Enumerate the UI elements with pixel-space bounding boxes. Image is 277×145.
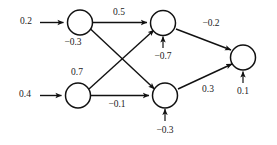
bias-label-h3: −0.7 <box>154 51 171 61</box>
network-canvas: 0.2 0.4 0.5 −0.1 −0.2 0.3 −0.3 0.7 −0.7 … <box>0 0 277 145</box>
node-h3[interactable] <box>151 11 176 36</box>
bias-label-out: 0.1 <box>237 86 249 96</box>
neural-network-diagram: 0.2 0.4 0.5 −0.1 −0.2 0.3 −0.3 0.7 −0.7 … <box>0 0 277 145</box>
node-h1[interactable] <box>68 10 93 35</box>
bias-label-h1: −0.3 <box>64 37 81 47</box>
bias-label-h2: 0.7 <box>71 67 83 77</box>
input-label-2: 0.4 <box>19 89 31 99</box>
edge-label-h3-out: −0.2 <box>202 18 219 28</box>
input-label-1: 0.2 <box>20 16 32 26</box>
node-h4[interactable] <box>153 83 178 108</box>
node-out[interactable] <box>231 45 256 70</box>
edge-label-h2-h4: −0.1 <box>108 99 125 109</box>
edge-label-h1-h3: 0.5 <box>113 7 125 17</box>
bias-label-h4: −0.3 <box>156 125 173 135</box>
edge-label-h4-out: 0.3 <box>202 84 214 94</box>
edge-h3-out <box>176 29 231 50</box>
node-h2[interactable] <box>66 83 91 108</box>
